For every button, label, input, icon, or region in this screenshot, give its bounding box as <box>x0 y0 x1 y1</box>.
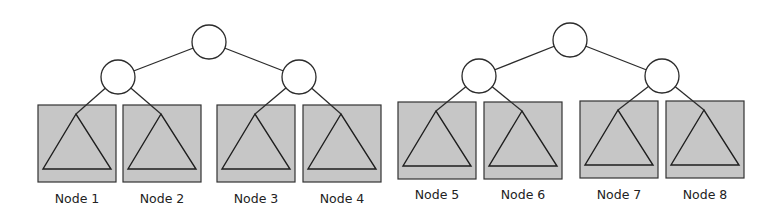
leaf-label: Node 6 <box>501 187 546 202</box>
internal-node <box>101 60 135 94</box>
leaf-label: Node 1 <box>55 191 100 206</box>
leaf-label: Node 8 <box>683 187 728 202</box>
leaf-label: Node 4 <box>320 191 365 206</box>
leaf-label: Node 7 <box>597 187 642 202</box>
leaf-label: Node 5 <box>415 187 460 202</box>
root-node <box>553 23 587 57</box>
root-node <box>192 25 226 59</box>
leaf-label: Node 2 <box>140 191 185 206</box>
tree-diagram: Node 1Node 2Node 3Node 4Node 5Node 6Node… <box>0 0 775 216</box>
internal-node <box>645 59 679 93</box>
leaf-label: Node 3 <box>234 191 279 206</box>
internal-node <box>462 59 496 93</box>
internal-node <box>282 60 316 94</box>
